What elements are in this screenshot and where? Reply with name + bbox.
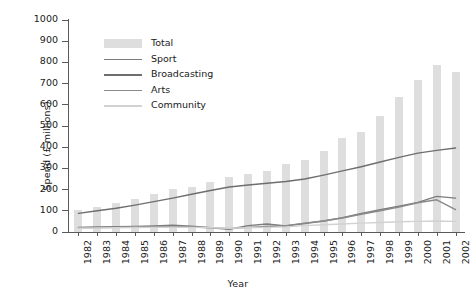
legend-swatch-line-icon: [104, 105, 142, 107]
legend-swatch-line-icon: [104, 59, 142, 61]
line-series-overlay: [0, 0, 476, 292]
legend-label: Arts: [151, 84, 170, 95]
legend-swatch-line-icon: [104, 90, 142, 92]
line-series-broadcasting: [78, 148, 455, 213]
legend-label: Broadcasting: [151, 68, 213, 79]
chart-container: Spend (£ millions) Year 0100200300400500…: [0, 0, 476, 292]
legend-label: Sport: [151, 53, 177, 64]
line-series-sport: [78, 196, 455, 229]
legend-swatch-bar-icon: [104, 39, 142, 48]
legend-label: Total: [151, 37, 173, 48]
legend-label: Community: [151, 99, 206, 110]
legend-swatch-line-icon: [104, 74, 142, 76]
